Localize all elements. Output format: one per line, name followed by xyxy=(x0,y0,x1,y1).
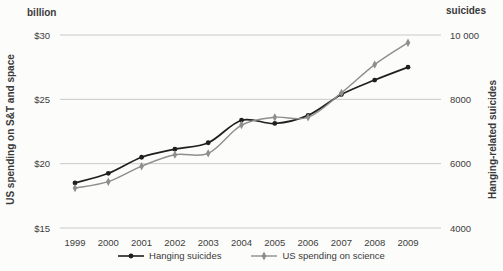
data-point-diamond xyxy=(372,60,377,68)
left-axis-tick: $15 xyxy=(34,223,50,234)
right-axis-tick: 4000 xyxy=(450,223,471,234)
data-point-diamond xyxy=(406,39,411,47)
data-point-circle xyxy=(406,65,411,70)
gridlines xyxy=(60,35,441,228)
hanging-suicides-marker-icon xyxy=(118,252,144,260)
chart-canvas: billion suicides US spending on S&T and … xyxy=(0,0,503,271)
data-point-circle xyxy=(272,121,277,126)
x-axis-tick: 2003 xyxy=(198,237,219,248)
legend-label-hanging-suicides: Hanging suicides xyxy=(149,250,221,261)
legend-item-hanging-suicides: Hanging suicides xyxy=(118,250,221,261)
series-us-spending-on-science xyxy=(73,39,411,193)
data-point-diamond xyxy=(73,184,78,192)
x-axis-tick: 2005 xyxy=(264,237,285,248)
plot-area: $3010 000$258000$206000$1540001999200020… xyxy=(0,0,503,271)
series-line xyxy=(75,43,408,188)
right-axis-tick: 6000 xyxy=(450,158,471,169)
data-point-circle xyxy=(206,140,211,145)
data-point-circle xyxy=(139,155,144,160)
data-point-diamond xyxy=(206,149,211,157)
x-axis-tick: 2000 xyxy=(98,237,119,248)
data-point-diamond xyxy=(273,113,278,121)
x-axis-tick: 2002 xyxy=(164,237,185,248)
legend: Hanging suicides US spending on science xyxy=(0,250,503,261)
data-point-circle xyxy=(106,171,111,176)
x-axis-tick: 2001 xyxy=(131,237,152,248)
x-axis-tick: 2006 xyxy=(298,237,319,248)
left-axis-tick: $20 xyxy=(34,158,50,169)
legend-item-us-spending: US spending on science xyxy=(251,250,384,261)
data-point-diamond xyxy=(239,121,244,129)
left-axis-tick: $25 xyxy=(34,94,50,105)
us-spending-marker-icon xyxy=(251,251,277,261)
right-axis-tick: 10 000 xyxy=(450,30,479,41)
legend-label-us-spending: US spending on science xyxy=(282,250,384,261)
x-axis-tick: 2004 xyxy=(231,237,252,248)
data-point-diamond xyxy=(106,177,111,185)
x-axis-tick: 2007 xyxy=(331,237,352,248)
data-point-diamond xyxy=(173,150,178,158)
left-axis-tick: $30 xyxy=(34,30,50,41)
x-axis-tick: 1999 xyxy=(64,237,85,248)
x-axis-tick: 2008 xyxy=(364,237,385,248)
right-axis-tick: 8000 xyxy=(450,94,471,105)
data-point-circle xyxy=(372,78,377,83)
x-axis-tick: 2009 xyxy=(397,237,418,248)
